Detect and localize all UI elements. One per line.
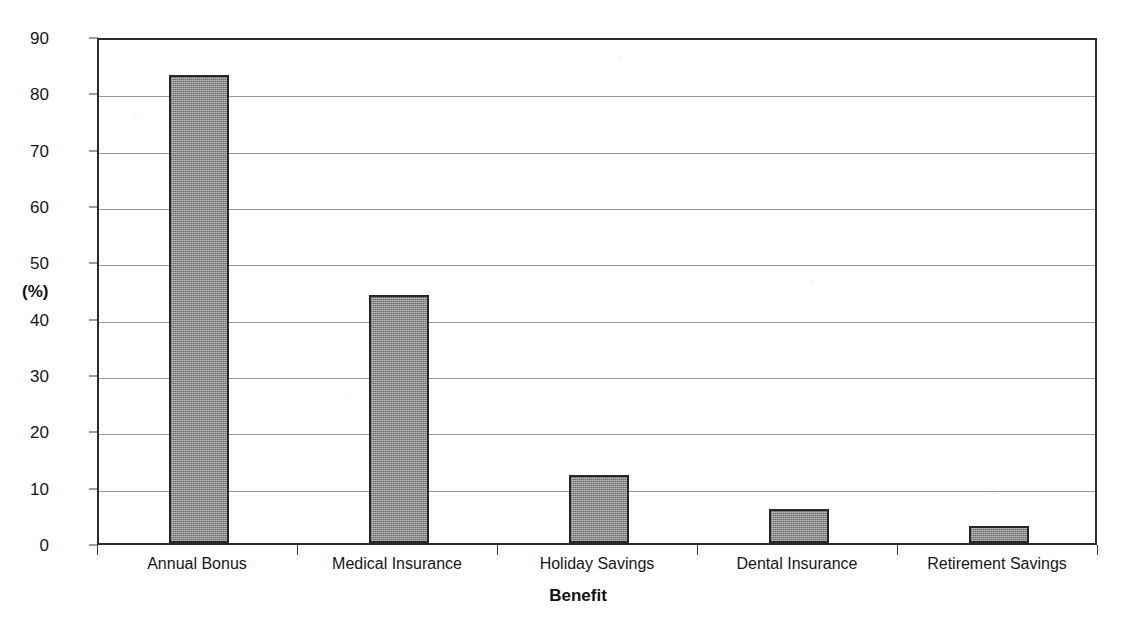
bar: [969, 526, 1029, 543]
gridline: [99, 96, 1095, 97]
y-tick-label: 90: [30, 30, 49, 47]
y-tick-label: 30: [30, 368, 49, 385]
bar: [569, 475, 629, 543]
x-tick-mark: [897, 545, 898, 555]
gridline: [99, 209, 1095, 210]
y-tick-label: 70: [30, 142, 49, 159]
y-tick-label: 20: [30, 424, 49, 441]
gridline: [99, 265, 1095, 266]
x-tick-label: Annual Bonus: [147, 556, 247, 572]
bar: [369, 295, 429, 543]
x-tick-mark: [497, 545, 498, 555]
bar-chart-figure: (%) 0102030405060708090 Annual BonusMedi…: [0, 0, 1128, 639]
x-tick-mark: [297, 545, 298, 555]
x-tick-mark: [697, 545, 698, 555]
bar: [769, 509, 829, 543]
y-tick-label: 80: [30, 86, 49, 103]
gridline: [99, 153, 1095, 154]
x-tick-label: Holiday Savings: [540, 556, 655, 572]
gridline: [99, 378, 1095, 379]
gridline: [99, 322, 1095, 323]
x-tick-label: Medical Insurance: [332, 556, 462, 572]
gridline: [99, 434, 1095, 435]
x-tick-mark: [1097, 545, 1098, 555]
y-tick-label: 50: [30, 255, 49, 272]
y-tick-label: 10: [30, 480, 49, 497]
y-axis: 0102030405060708090: [0, 0, 97, 583]
x-tick-label: Dental Insurance: [737, 556, 858, 572]
x-axis-title: Benefit: [549, 586, 607, 606]
y-tick-label: 0: [40, 537, 49, 554]
x-tick-label: Retirement Savings: [927, 556, 1067, 572]
bar: [169, 75, 229, 543]
x-tick-mark: [97, 545, 98, 555]
y-tick-label: 40: [30, 311, 49, 328]
plot-area: [97, 38, 1097, 545]
y-tick-label: 60: [30, 199, 49, 216]
